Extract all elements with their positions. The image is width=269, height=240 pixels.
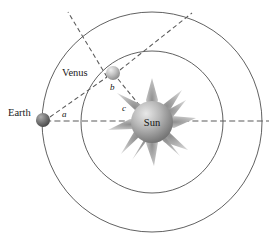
venus-label: Venus (62, 67, 88, 78)
venus-sphere (106, 66, 120, 80)
venus-body: Venus (62, 66, 120, 80)
sun-body: Sun (108, 78, 196, 166)
earth-body: Earth (8, 107, 50, 127)
angle-label-b: b (110, 82, 115, 92)
sun-label: Sun (144, 117, 161, 128)
earth-venus-sight-line (50, 77, 107, 117)
angle-label-c: c (122, 103, 126, 113)
earth-sphere (36, 113, 50, 127)
earth-label: Earth (8, 107, 31, 118)
angle-labels-group: a b c (62, 82, 126, 119)
angle-label-a: a (62, 109, 67, 119)
venus-upper-right-ray (120, 13, 192, 70)
diagram-canvas: Sun Venus Earth a b c (0, 0, 269, 240)
orbital-diagram: Sun Venus Earth a b c (0, 0, 269, 240)
